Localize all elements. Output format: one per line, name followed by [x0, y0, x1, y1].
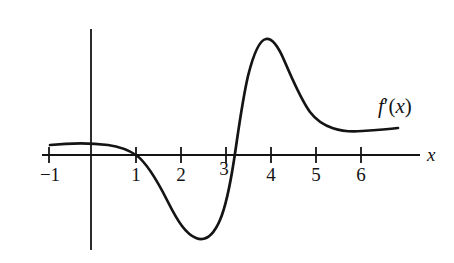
derivative-plot [0, 0, 454, 263]
tick-label-2: 2 [176, 165, 186, 184]
tick-label-neg1: −1 [40, 165, 60, 184]
figure-container: −1 1 2 3 4 5 6 x f′(x) [0, 0, 454, 263]
tick-label-1: 1 [131, 165, 141, 184]
derivative-curve [50, 39, 398, 239]
curve-label-f-prime-x: f′(x) [378, 96, 412, 117]
tick-label-6: 6 [356, 165, 366, 184]
tick-label-3: 3 [219, 159, 229, 178]
x-axis-label: x [427, 145, 435, 164]
tick-label-4: 4 [266, 165, 276, 184]
tick-label-5: 5 [311, 165, 321, 184]
curve-label-close-paren: ) [405, 94, 412, 118]
curve-label-x: x [395, 94, 404, 118]
